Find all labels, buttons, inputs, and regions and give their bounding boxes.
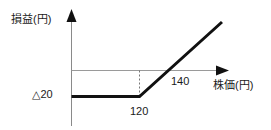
payoff-chart: 損益(円) 株価(円) 120 140 △20 [0, 0, 271, 130]
x-tick-label-strike: 120 [130, 105, 148, 118]
y-tick-label-max-loss: △20 [32, 88, 53, 101]
arrow-right-icon [216, 66, 229, 76]
arrow-up-icon [67, 9, 77, 22]
x-axis-title: 株価(円) [213, 78, 253, 92]
x-tick-label-breakeven: 140 [171, 75, 189, 88]
payoff-line [72, 22, 223, 97]
y-axis-title: 損益(円) [11, 12, 51, 26]
